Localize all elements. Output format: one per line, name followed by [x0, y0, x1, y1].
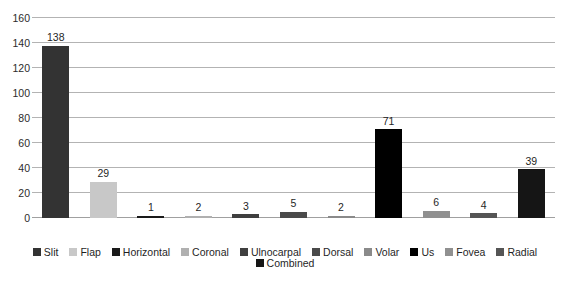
bar-us: [375, 129, 402, 218]
legend-item-label: Ulnocarpal: [251, 247, 301, 258]
legend-swatch-icon: [364, 248, 372, 256]
bar-value-label: 6: [433, 197, 439, 208]
legend-item-label: Slit: [44, 247, 59, 258]
bar-value-label: 39: [525, 156, 537, 167]
legend-swatch-icon: [33, 248, 41, 256]
legend-item-label: Fovea: [456, 247, 485, 258]
bar-horizontal: [137, 216, 164, 219]
legend-item-fovea[interactable]: Fovea: [445, 247, 485, 258]
y-axis-tick-label: 160: [12, 13, 30, 24]
legend-item-ulnocarpal[interactable]: Ulnocarpal: [240, 247, 301, 258]
y-axis: 020406080100120140160: [0, 18, 30, 218]
legend-item-label: Combined: [267, 258, 315, 269]
legend-item-coronal[interactable]: Coronal: [181, 247, 229, 258]
bars-layer: 1382912352716439: [32, 18, 555, 218]
bar-slit: [42, 46, 69, 219]
y-axis-tick-label: 60: [18, 138, 30, 149]
legend-swatch-icon: [496, 248, 504, 256]
y-axis-tick-label: 120: [12, 63, 30, 74]
bar-value-label: 1: [148, 202, 154, 213]
legend-item-label: Horizontal: [123, 247, 170, 258]
bar-flap: [90, 182, 117, 218]
legend-swatch-icon: [410, 248, 418, 256]
bar-value-label: 138: [47, 32, 65, 43]
legend-item-horizontal[interactable]: Horizontal: [112, 247, 170, 258]
legend-item-combined[interactable]: Combined: [256, 258, 315, 269]
legend-item-label: Radial: [507, 247, 537, 258]
bar-value-label: 5: [291, 198, 297, 209]
legend-item-flap[interactable]: Flap: [69, 247, 100, 258]
legend-item-label: Volar: [375, 247, 399, 258]
legend-item-dorsal[interactable]: Dorsal: [312, 247, 353, 258]
bar-combined: [518, 169, 545, 218]
bar-value-label: 3: [243, 201, 249, 212]
bar-value-label: 71: [383, 116, 395, 127]
legend-swatch-icon: [445, 248, 453, 256]
y-axis-tick-label: 40: [18, 163, 30, 174]
legend-item-volar[interactable]: Volar: [364, 247, 399, 258]
bar-chart: 020406080100120140160 1382912352716439 S…: [0, 0, 570, 284]
bar-ulnocarpal: [232, 214, 259, 218]
bar-radial: [470, 213, 497, 218]
bar-volar: [328, 216, 355, 219]
legend-item-slit[interactable]: Slit: [33, 247, 59, 258]
bar-value-label: 2: [195, 202, 201, 213]
legend-item-label: Us: [421, 247, 434, 258]
legend-item-us[interactable]: Us: [410, 247, 434, 258]
bar-value-label: 29: [97, 168, 109, 179]
y-axis-tick-label: 140: [12, 38, 30, 49]
legend-swatch-icon: [181, 248, 189, 256]
y-axis-tick-label: 20: [18, 188, 30, 199]
legend-item-label: Dorsal: [323, 247, 353, 258]
legend-swatch-icon: [256, 259, 264, 267]
bar-coronal: [185, 216, 212, 219]
y-axis-tick-label: 100: [12, 88, 30, 99]
legend-swatch-icon: [69, 248, 77, 256]
legend-swatch-icon: [112, 248, 120, 256]
bar-value-label: 2: [338, 202, 344, 213]
y-axis-tick-label: 0: [24, 213, 30, 224]
bar-dorsal: [280, 212, 307, 218]
chart-legend: SlitFlapHorizontalCoronalUlnocarpalDorsa…: [0, 247, 570, 268]
legend-swatch-icon: [312, 248, 320, 256]
bar-value-label: 4: [481, 200, 487, 211]
legend-item-label: Coronal: [192, 247, 229, 258]
legend-item-radial[interactable]: Radial: [496, 247, 537, 258]
y-axis-tick-label: 80: [18, 113, 30, 124]
legend-item-label: Flap: [80, 247, 100, 258]
legend-swatch-icon: [240, 248, 248, 256]
bar-fovea: [423, 211, 450, 219]
